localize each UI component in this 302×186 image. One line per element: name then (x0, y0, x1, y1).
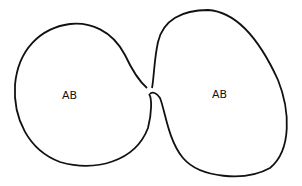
left-region-label: AB (62, 89, 77, 102)
two-regions-diagram: AB AB (0, 0, 302, 186)
right-region-label: AB (212, 88, 227, 101)
left-region-outline (15, 24, 151, 166)
